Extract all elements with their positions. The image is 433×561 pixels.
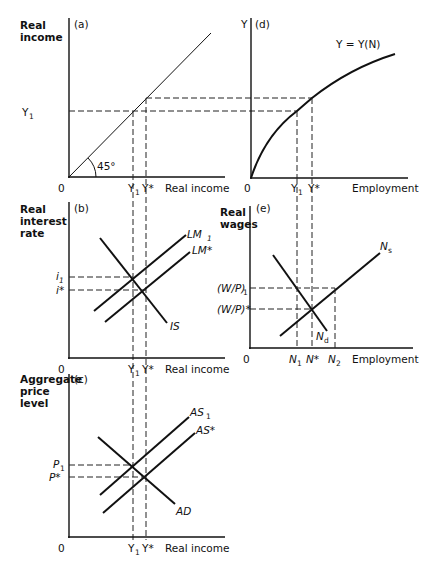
svg-text:1: 1	[207, 234, 212, 243]
svg-text:N*: N*	[306, 353, 319, 365]
svg-text:0: 0	[58, 542, 65, 554]
svg-text:IS: IS	[170, 320, 180, 332]
svg-text:level: level	[20, 397, 48, 409]
svg-text:P*: P*	[49, 471, 61, 483]
svg-text:1: 1	[135, 369, 140, 378]
panel-c: Aggregate price level (c) AS 1 AS* AD P …	[20, 373, 229, 557]
svg-text:1: 1	[29, 112, 34, 121]
svg-text:0: 0	[58, 182, 65, 194]
svg-text:Y*: Y*	[141, 542, 154, 554]
svg-text:P: P	[53, 458, 60, 470]
svg-text:1: 1	[135, 188, 140, 197]
angle-arc	[88, 158, 96, 177]
svg-text:Y: Y	[127, 363, 135, 375]
line-45-degree	[69, 33, 211, 177]
svg-text:rate: rate	[20, 227, 44, 239]
svg-text:Y: Y	[127, 542, 135, 554]
svg-text:0: 0	[243, 353, 250, 365]
svg-text:price: price	[20, 385, 50, 397]
panel-b: Real interest rate (b) LM 1 LM* IS i 1 i…	[20, 202, 229, 378]
production-function-curve	[251, 54, 395, 178]
svg-text:1: 1	[60, 464, 65, 473]
svg-text:N: N	[289, 353, 297, 365]
svg-text:interest: interest	[20, 215, 67, 227]
svg-text:Y: Y	[127, 182, 135, 194]
svg-text:Aggregate: Aggregate	[20, 373, 82, 385]
svg-text:Y: Y	[290, 182, 298, 194]
svg-text:Y*: Y*	[141, 182, 154, 194]
classical-model-diagram: Real income (a) 45° Y 1 0 Y 1 Y* Real in…	[0, 0, 433, 561]
svg-text:1: 1	[297, 359, 302, 368]
svg-text:0: 0	[244, 182, 251, 194]
svg-text:AS: AS	[189, 406, 204, 418]
svg-text:Y: Y	[21, 106, 29, 118]
panel-b-xlabel: Real income	[165, 363, 229, 375]
panel-e: Real wages (e) N s N d (W/P) 1 (W/P)* 0 …	[217, 202, 419, 368]
svg-text:Y: Y	[240, 18, 248, 30]
svg-text:LM*: LM*	[192, 244, 212, 256]
ad-curve	[98, 437, 175, 504]
svg-text:2: 2	[336, 359, 341, 368]
svg-text:s: s	[388, 246, 392, 255]
svg-text:income: income	[20, 31, 63, 43]
panel-a-xlabel: Real income	[165, 182, 229, 194]
svg-text:(W/P): (W/P)	[217, 282, 245, 294]
asstar-curve	[103, 433, 195, 513]
svg-text:1: 1	[298, 188, 303, 197]
panel-e-xlabel: Employment	[352, 353, 419, 365]
lmstar-curve	[105, 252, 190, 322]
svg-text:N: N	[328, 353, 336, 365]
svg-text:AD: AD	[175, 505, 191, 517]
svg-text:Y*: Y*	[141, 363, 154, 375]
panel-a-ylabel: Real	[20, 19, 46, 31]
panel-c-tag: (c)	[74, 373, 88, 385]
panel-e-tag: (e)	[256, 202, 271, 214]
svg-text:N: N	[380, 240, 388, 252]
panel-a-tag: (a)	[74, 18, 89, 30]
svg-text:LM: LM	[187, 228, 202, 240]
panel-d-tag: (d)	[255, 18, 270, 30]
as1-curve	[100, 417, 189, 495]
svg-text:AS*: AS*	[195, 424, 215, 436]
svg-text:(W/P)*: (W/P)*	[217, 303, 251, 315]
svg-text:wages: wages	[220, 218, 258, 230]
svg-text:i*: i*	[56, 284, 64, 296]
svg-text:N: N	[316, 330, 324, 342]
labour-supply-curve	[280, 253, 380, 336]
panel-d-xlabel: Employment	[352, 182, 419, 194]
svg-text:1: 1	[206, 412, 211, 421]
panel-a: Real income (a) 45° Y 1 0 Y 1 Y* Real in…	[20, 18, 312, 540]
svg-text:Real: Real	[220, 206, 246, 218]
svg-text:d: d	[324, 336, 329, 345]
panel-c-xlabel: Real income	[165, 542, 229, 554]
angle-label: 45°	[97, 160, 116, 172]
svg-text:Y*: Y*	[307, 182, 320, 194]
svg-text:Real: Real	[20, 203, 46, 215]
svg-text:1: 1	[135, 548, 140, 557]
svg-text:1: 1	[243, 288, 248, 297]
production-function-label: Y = Y(N)	[335, 38, 380, 50]
panel-d: Y (d) Y = Y(N) 0 Y 1 Y* Employment	[240, 18, 419, 348]
panel-b-tag: (b)	[74, 202, 89, 214]
